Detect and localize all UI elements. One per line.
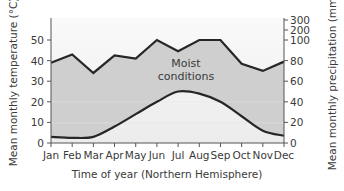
right-tick-label: 0 — [290, 137, 297, 149]
x-axis-title: Time of year (Northern Hemisphere) — [71, 168, 263, 180]
climate-chart: 01020304050 020406080100200300 JanFebMar… — [0, 0, 344, 191]
x-tick-label: Mar — [83, 149, 103, 161]
right-tick-label: 80 — [290, 55, 303, 67]
left-tick-label: 10 — [31, 116, 44, 128]
x-tick-label: Aug — [189, 149, 210, 161]
annotation-moist: Moist — [171, 57, 201, 70]
x-tick-label: Jul — [171, 149, 185, 161]
right-tick-label: 300 — [290, 14, 310, 26]
left-axis-title: Mean monthly temperature (°C) — [7, 0, 19, 166]
x-tick-label: Apr — [105, 149, 124, 161]
x-axis-ticks: JanFebMarAprMayJunJulAugSepOctNovDec — [42, 143, 294, 161]
left-tick-label: 30 — [31, 75, 44, 87]
x-tick-label: May — [125, 149, 147, 161]
left-tick-label: 50 — [31, 34, 44, 46]
x-tick-label: Feb — [63, 149, 82, 161]
x-tick-label: Oct — [233, 149, 251, 161]
x-tick-label: Nov — [253, 149, 274, 161]
left-tick-label: 20 — [31, 96, 44, 108]
annotation-conditions: conditions — [158, 70, 215, 83]
left-tick-label: 40 — [31, 55, 44, 67]
right-tick-label: 20 — [290, 116, 303, 128]
right-tick-label: 60 — [290, 75, 303, 87]
x-tick-label: Jan — [42, 149, 59, 161]
x-tick-label: Sep — [211, 149, 231, 161]
right-axis-ticks: 020406080100200300 — [284, 14, 310, 149]
x-tick-label: Jun — [148, 149, 165, 161]
left-tick-label: 0 — [37, 137, 44, 149]
left-axis-ticks: 01020304050 — [31, 34, 51, 149]
right-axis-title: Mean monthly precipitation (mm) — [326, 0, 338, 170]
right-tick-label: 40 — [290, 96, 303, 108]
x-tick-label: Dec — [274, 149, 295, 161]
